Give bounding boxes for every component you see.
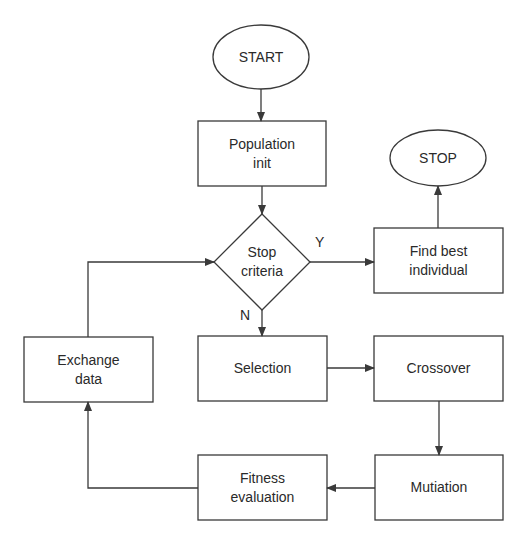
stop-label: STOP [390,130,486,186]
crossover-label: Crossover [374,336,503,401]
stop-criteria-label: Stop criteria [214,214,310,310]
arrow-fitness-exchange [88,402,198,488]
arrow-exchange-crit [88,262,214,337]
mutation-label: Mutiation [375,455,503,520]
fitness-label: Fitness evaluation [198,455,327,520]
exchange-label: Exchange data [24,337,153,402]
no-label: N [240,307,250,323]
start-label: START [213,25,309,89]
yes-label: Y [315,234,324,250]
find-best-label: Find best individual [374,228,503,293]
selection-label: Selection [198,336,327,401]
population-init-label: Population init [198,121,326,186]
